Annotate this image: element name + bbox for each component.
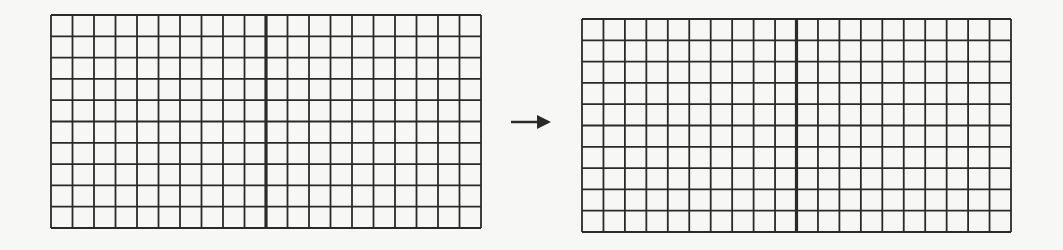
left-grid [50, 14, 482, 229]
right-grid [581, 18, 1012, 233]
arrow-right-icon [511, 114, 551, 134]
